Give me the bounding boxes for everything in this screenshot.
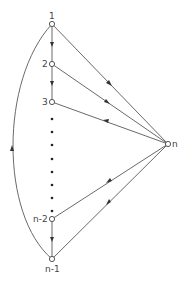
node-label-2: 2: [42, 59, 48, 69]
node-label-n-2: n-2: [33, 214, 48, 224]
node-n-1: [49, 256, 54, 261]
ellipsis-dots: [51, 118, 54, 213]
node-2: [49, 61, 54, 66]
arrow-icon: [106, 199, 111, 205]
node-n: [165, 141, 170, 146]
node-label-n: n: [172, 139, 178, 149]
arrow-down-icon: [50, 81, 54, 86]
arrow-icon: [104, 99, 110, 104]
arrow-down-icon: [50, 42, 54, 47]
node-3: [49, 99, 54, 104]
node-1: [49, 21, 54, 26]
directed-graph-diagram: 1 2 3 n-2 n-1 n: [0, 0, 180, 282]
node-n-2: [49, 216, 54, 221]
node-label-n-1: n-1: [45, 264, 60, 274]
node-label-1: 1: [49, 11, 55, 21]
node-label-3: 3: [42, 97, 48, 107]
arrow-down-icon: [50, 237, 54, 242]
edge-n-to-3: [52, 102, 168, 144]
